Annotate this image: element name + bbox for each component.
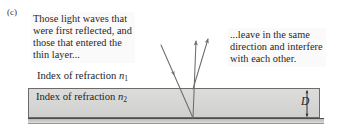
index-of-refraction-n2-label: Index of refraction n2 — [36, 90, 127, 106]
callout-left: Those light waves that were first reflec… — [31, 12, 135, 63]
reflected-surface-ray — [193, 39, 208, 89]
callout-left-line-4: thin layer... — [33, 49, 132, 61]
callout-right-line-3: with each other. — [230, 53, 323, 65]
callout-left-line-2: were first reflected, and — [33, 25, 132, 37]
n1-text: Index of refraction — [37, 70, 119, 81]
n2-text: Index of refraction — [36, 91, 118, 102]
callout-left-line-3: those that entered the — [33, 37, 132, 49]
thickness-label-D: D — [301, 95, 309, 108]
n2-subscript: 2 — [123, 95, 127, 104]
thin-film-interference-figure: (c) Those light waves that were first re… — [0, 0, 343, 132]
callout-left-line-1: Those light waves that — [33, 13, 132, 25]
n1-subscript: 1 — [124, 74, 128, 83]
panel-label: (c) — [7, 7, 17, 17]
callout-right-line-2: direction and interfere — [230, 41, 323, 53]
substrate-band — [28, 118, 324, 124]
callout-right: ...leave in the same direction and inter… — [228, 28, 326, 67]
index-of-refraction-n1-label: Index of refraction n1 — [37, 69, 128, 85]
callout-right-line-1: ...leave in the same — [230, 29, 323, 41]
